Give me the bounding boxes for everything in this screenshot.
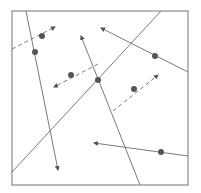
- line-f-arrow: [81, 36, 140, 185]
- lines-layer: [12, 11, 188, 185]
- dot-6-point: [131, 86, 137, 92]
- dot-4-point: [95, 77, 101, 83]
- line-g-arrow: [113, 75, 158, 111]
- dot-1-point: [39, 33, 45, 39]
- dot-3-point: [68, 72, 74, 78]
- dot-7-point: [158, 149, 164, 155]
- diagram-frame: [12, 11, 188, 185]
- dot-5-point: [152, 53, 158, 59]
- line-e-arrow: [54, 64, 98, 87]
- line-h-arrow: [94, 143, 188, 156]
- line-d-arrow: [101, 28, 188, 72]
- line-b-arrow: [12, 27, 55, 49]
- dot-2-point: [32, 49, 38, 55]
- diagram-canvas: [0, 0, 201, 193]
- line-c-line: [12, 11, 161, 172]
